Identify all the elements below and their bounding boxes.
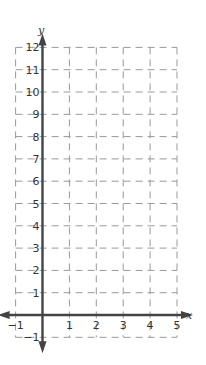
x-tick-label: 4: [147, 319, 154, 332]
y-tick-label: 9: [33, 108, 40, 121]
y-axis-label: y: [37, 24, 45, 37]
x-tick-label: 2: [93, 319, 100, 332]
x-tick-labels: −112345: [7, 319, 180, 332]
y-tick-label: 12: [26, 41, 40, 54]
grid-lines: [16, 47, 177, 337]
y-tick-label: 4: [33, 220, 40, 233]
x-axis-arrow-left-icon: [0, 311, 10, 319]
coordinate-plane: −112345 −1123456789101112 x y: [0, 0, 206, 365]
y-tick-label: 11: [26, 64, 40, 77]
y-tick-label: −1: [23, 331, 39, 344]
y-tick-label: 2: [33, 264, 40, 277]
x-tick-label: −1: [7, 319, 23, 332]
y-tick-label: 7: [33, 153, 40, 166]
x-tick-label: 1: [66, 319, 73, 332]
y-tick-label: 3: [33, 242, 40, 255]
x-axis-label: x: [186, 309, 193, 322]
x-tick-label: 3: [120, 319, 127, 332]
y-tick-label: 10: [26, 86, 40, 99]
y-tick-label: 8: [33, 131, 40, 144]
x-tick-label: 5: [174, 319, 181, 332]
y-tick-label: 1: [33, 287, 40, 300]
y-axis-arrow-down-icon: [39, 341, 47, 353]
y-tick-label: 6: [33, 175, 40, 188]
y-tick-label: 5: [33, 198, 40, 211]
y-tick-labels: −1123456789101112: [23, 41, 39, 344]
